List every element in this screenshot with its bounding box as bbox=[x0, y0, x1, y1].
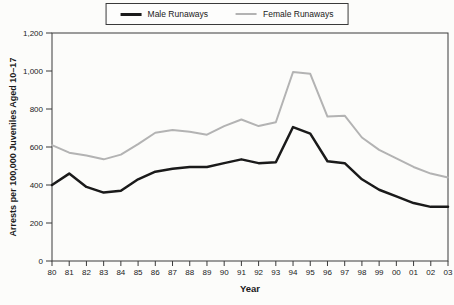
legend: Male Runaways Female Runaways bbox=[106, 3, 349, 25]
x-tick-label: 98 bbox=[357, 268, 366, 277]
chart-plot: 02004006008001,0001,20080818283848586878… bbox=[0, 0, 454, 305]
x-tick-label: 99 bbox=[375, 268, 384, 277]
x-tick-label: 95 bbox=[306, 268, 315, 277]
y-tick-label: 600 bbox=[30, 143, 44, 152]
x-tick-label: 93 bbox=[271, 268, 280, 277]
x-tick-label: 90 bbox=[220, 268, 229, 277]
plot-frame bbox=[52, 33, 448, 261]
y-tick-label: 200 bbox=[30, 219, 44, 228]
x-tick-label: 80 bbox=[48, 268, 57, 277]
male-runaways-line bbox=[52, 127, 448, 207]
male-line-swatch bbox=[121, 13, 142, 16]
legend-label-female: Female Runaways bbox=[263, 9, 333, 19]
legend-item-male: Male Runaways bbox=[121, 9, 208, 19]
y-tick-label: 800 bbox=[30, 105, 44, 114]
x-axis-title: Year bbox=[52, 283, 448, 294]
x-tick-label: 85 bbox=[134, 268, 143, 277]
x-tick-label: 02 bbox=[426, 268, 435, 277]
x-tick-label: 91 bbox=[237, 268, 246, 277]
y-tick-label: 1,200 bbox=[23, 29, 44, 38]
x-tick-label: 00 bbox=[392, 268, 401, 277]
x-tick-label: 03 bbox=[444, 268, 453, 277]
female-line-swatch bbox=[236, 13, 257, 15]
y-tick-label: 1,000 bbox=[23, 67, 44, 76]
x-tick-label: 92 bbox=[254, 268, 263, 277]
y-tick-label: 0 bbox=[39, 257, 44, 266]
x-tick-label: 83 bbox=[99, 268, 108, 277]
x-tick-label: 82 bbox=[82, 268, 91, 277]
x-tick-label: 86 bbox=[151, 268, 160, 277]
legend-item-female: Female Runaways bbox=[236, 9, 333, 19]
x-tick-label: 88 bbox=[185, 268, 194, 277]
x-tick-label: 01 bbox=[409, 268, 418, 277]
x-tick-label: 87 bbox=[168, 268, 177, 277]
legend-label-male: Male Runaways bbox=[148, 9, 208, 19]
x-tick-label: 94 bbox=[289, 268, 298, 277]
y-tick-label: 400 bbox=[30, 181, 44, 190]
chart-screenshot: 02004006008001,0001,20080818283848586878… bbox=[0, 0, 454, 305]
x-tick-label: 89 bbox=[203, 268, 212, 277]
x-tick-label: 97 bbox=[340, 268, 349, 277]
x-tick-label: 84 bbox=[116, 268, 125, 277]
y-axis-title: Arrests per 100,000 Juveniles Aged 10–17 bbox=[8, 58, 18, 237]
x-tick-label: 96 bbox=[323, 268, 332, 277]
x-tick-label: 81 bbox=[65, 268, 74, 277]
